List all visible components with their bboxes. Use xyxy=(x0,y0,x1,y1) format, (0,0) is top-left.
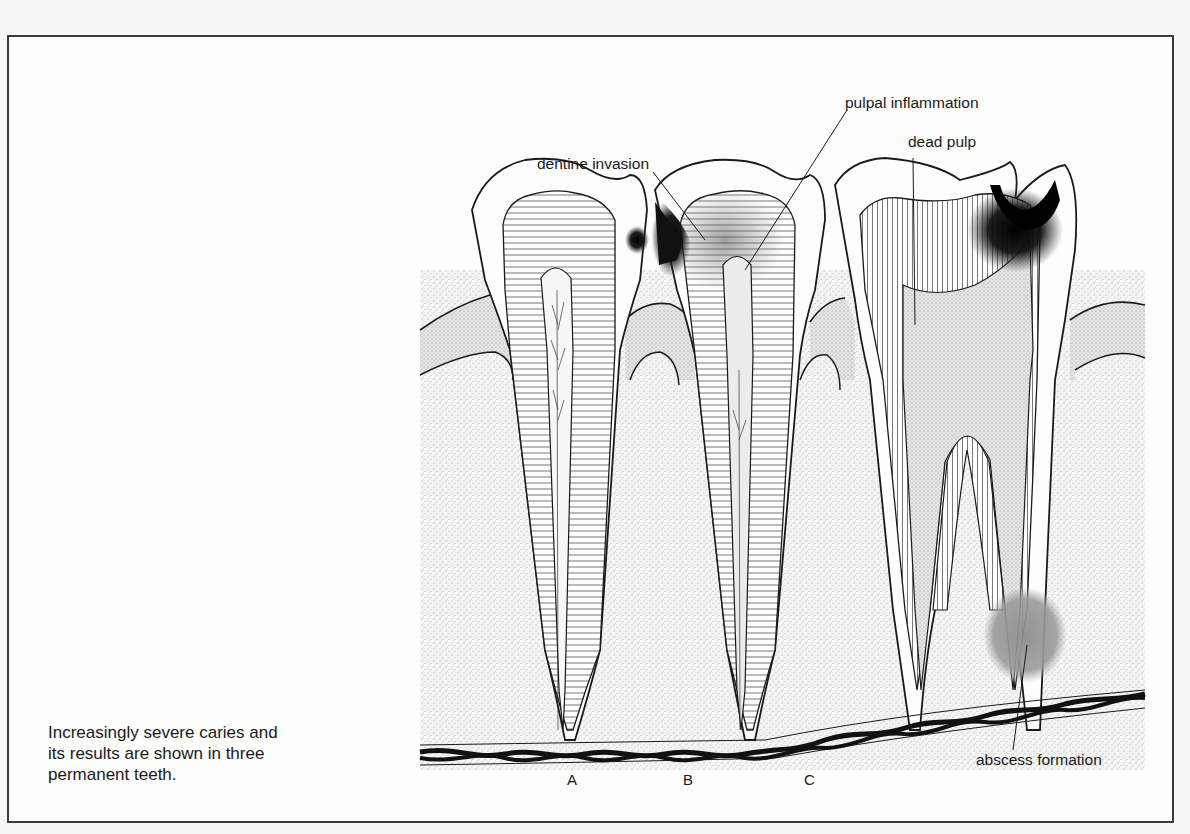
tooth-label-c: C xyxy=(804,771,815,788)
tooth-label-b: B xyxy=(683,771,693,788)
label-dentine-invasion: dentine invasion xyxy=(537,155,649,173)
label-pulpal-inflammation: pulpal inflammation xyxy=(845,94,979,112)
caption-line-2: its results are shown in three xyxy=(48,743,378,764)
tooth-label-a: A xyxy=(567,771,577,788)
label-dead-pulp: dead pulp xyxy=(908,133,976,151)
teeth-illustration xyxy=(415,90,1165,795)
caption-line-1: Increasingly severe caries and xyxy=(48,722,378,743)
caption-line-3: permanent teeth. xyxy=(48,764,378,785)
figure-caption: Increasingly severe caries and its resul… xyxy=(48,722,378,785)
abscess-area xyxy=(983,587,1067,683)
label-abscess-formation: abscess formation xyxy=(976,751,1102,769)
